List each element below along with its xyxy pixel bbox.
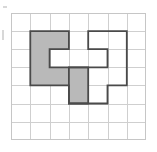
scan-artifact-speck (3, 6, 7, 8)
scan-artifact-speck-left (2, 30, 4, 40)
figure-root (0, 0, 157, 152)
grid-area (11, 13, 146, 140)
grid-border (12, 14, 146, 140)
grid-lines (11, 13, 146, 140)
grid-horizontal-lines (11, 14, 146, 141)
grid-vertical-lines (12, 13, 147, 140)
